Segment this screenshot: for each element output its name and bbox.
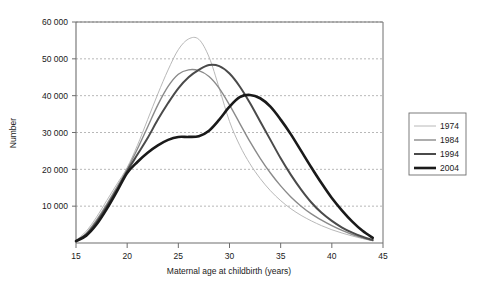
x-tick-label: 25 — [174, 251, 184, 261]
legend-label-1994: 1994 — [440, 149, 459, 159]
legend-label-1984: 1984 — [440, 135, 459, 145]
y-axis-title: Number — [8, 118, 18, 148]
y-tick-label: 20 000 — [42, 165, 68, 175]
legend: 1974198419942004 — [409, 113, 466, 175]
x-tick-label: 40 — [327, 251, 337, 261]
y-tick-label: 50 000 — [42, 54, 68, 64]
x-tick-label: 20 — [122, 251, 132, 261]
legend-label-2004: 2004 — [440, 163, 459, 173]
x-tick-label: 45 — [378, 251, 388, 261]
x-axis-title: Maternal age at childbirth (years) — [167, 266, 291, 276]
y-axis-ticks: 10 00020 00030 00040 00050 00060 000 — [42, 17, 76, 211]
chart-figure: 10 00020 00030 00040 00050 00060 000 152… — [0, 0, 480, 287]
y-tick-label: 40 000 — [42, 91, 68, 101]
y-tick-label: 30 000 — [42, 128, 68, 138]
legend-label-1974: 1974 — [440, 121, 459, 131]
y-tick-label: 60 000 — [42, 17, 68, 27]
x-tick-label: 30 — [225, 251, 235, 261]
x-tick-label: 35 — [276, 251, 286, 261]
y-tick-label: 10 000 — [42, 201, 68, 211]
x-tick-label: 15 — [71, 251, 81, 261]
plot-area — [76, 22, 383, 243]
x-axis-ticks: 15202530354045 — [71, 243, 388, 261]
